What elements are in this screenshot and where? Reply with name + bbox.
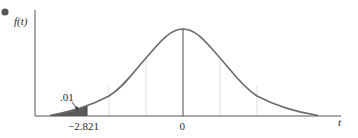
x-axis-label: t (338, 116, 342, 128)
density-curve (50, 29, 318, 116)
center-tick-label: 0 (180, 120, 186, 132)
critical-value-tick-label: −2.821 (68, 120, 99, 132)
tail-area-label: .01 (60, 91, 74, 103)
y-axis-label: f(t) (14, 15, 28, 28)
t-distribution-chart: f(t) t .01 −2.821 0 (0, 0, 358, 138)
bullet-marker (1, 8, 8, 15)
